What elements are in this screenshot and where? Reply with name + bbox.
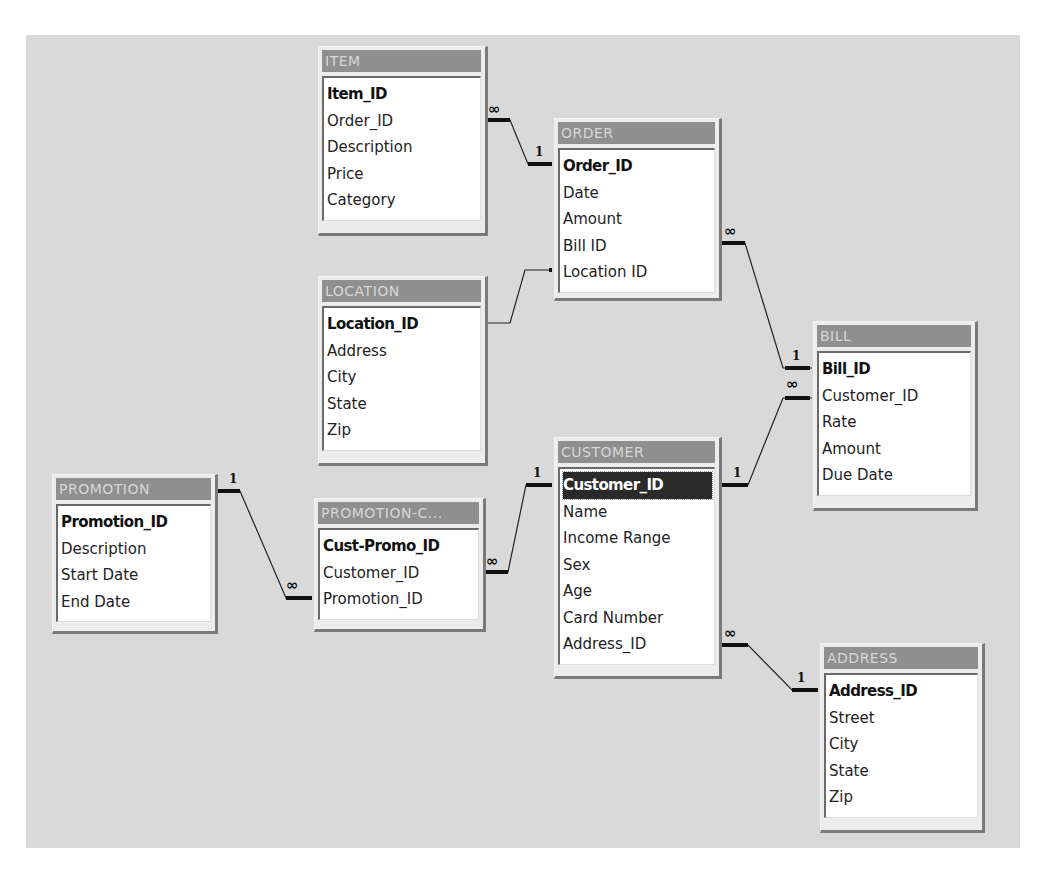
- field[interactable]: State: [829, 758, 977, 785]
- field[interactable]: Sex: [563, 552, 714, 579]
- field[interactable]: Start Date: [61, 562, 210, 589]
- field-list: Address_ID Street City State Zip: [824, 673, 978, 818]
- field[interactable]: Zip: [327, 417, 480, 444]
- table-bill[interactable]: BILL Bill_ID Customer_ID Rate Amount Due…: [813, 321, 978, 511]
- cardinality-one-label: 1: [533, 466, 541, 480]
- field-primary-key[interactable]: Item_ID: [327, 81, 480, 108]
- cardinality-one-label: 1: [792, 349, 800, 363]
- field[interactable]: Order_ID: [327, 108, 480, 135]
- table-title[interactable]: ORDER: [558, 122, 715, 144]
- field[interactable]: Age: [563, 578, 714, 605]
- field[interactable]: Bill ID: [563, 233, 714, 260]
- cardinality-many-icon: ∞: [286, 576, 298, 594]
- field[interactable]: Promotion_ID: [323, 586, 478, 613]
- table-item[interactable]: ITEM Item_ID Order_ID Description Price …: [318, 46, 488, 236]
- field[interactable]: Card Number: [563, 605, 714, 632]
- field[interactable]: Customer_ID: [323, 560, 478, 587]
- field-list: Location_ID Address City State Zip: [322, 306, 481, 451]
- field[interactable]: Income Range: [563, 525, 714, 552]
- field[interactable]: Name: [563, 499, 714, 526]
- field[interactable]: Location ID: [563, 259, 714, 286]
- cardinality-many-icon: ∞: [786, 375, 798, 393]
- field-list: Cust-Promo_ID Customer_ID Promotion_ID: [318, 528, 479, 620]
- field-list: Promotion_ID Description Start Date End …: [56, 504, 211, 622]
- field-list: Item_ID Order_ID Description Price Categ…: [322, 76, 481, 221]
- field-primary-key[interactable]: Location_ID: [327, 311, 480, 338]
- field-primary-key[interactable]: Cust-Promo_ID: [323, 533, 478, 560]
- field-primary-key[interactable]: Address_ID: [829, 678, 977, 705]
- field[interactable]: Amount: [563, 206, 714, 233]
- field[interactable]: City: [327, 364, 480, 391]
- table-customer[interactable]: CUSTOMER Customer_ID Name Income Range S…: [554, 437, 722, 679]
- field[interactable]: Customer_ID: [822, 383, 970, 410]
- field[interactable]: Address: [327, 338, 480, 365]
- field-primary-key-selected[interactable]: Customer_ID: [563, 472, 712, 499]
- table-promotion-customer[interactable]: PROMOTION-C... Cust-Promo_ID Customer_ID…: [314, 498, 486, 632]
- cardinality-one-label: 1: [229, 472, 237, 486]
- field[interactable]: City: [829, 731, 977, 758]
- field[interactable]: Address_ID: [563, 631, 714, 658]
- field[interactable]: State: [327, 391, 480, 418]
- field-list: Customer_ID Name Income Range Sex Age Ca…: [558, 467, 715, 665]
- table-location[interactable]: LOCATION Location_ID Address City State …: [318, 276, 488, 466]
- table-address[interactable]: ADDRESS Address_ID Street City State Zip: [820, 643, 985, 833]
- field-list: Order_ID Date Amount Bill ID Location ID: [558, 148, 715, 293]
- table-promotion[interactable]: PROMOTION Promotion_ID Description Start…: [52, 474, 218, 634]
- table-title[interactable]: PROMOTION-C...: [318, 502, 479, 524]
- field-list: Bill_ID Customer_ID Rate Amount Due Date: [817, 351, 971, 496]
- field[interactable]: Amount: [822, 436, 970, 463]
- table-title[interactable]: CUSTOMER: [558, 441, 715, 463]
- cardinality-many-icon: ∞: [486, 552, 498, 570]
- field[interactable]: Price: [327, 161, 480, 188]
- field[interactable]: Description: [61, 536, 210, 563]
- field[interactable]: Due Date: [822, 462, 970, 489]
- cardinality-many-icon: ∞: [724, 222, 736, 240]
- field-primary-key[interactable]: Order_ID: [563, 153, 714, 180]
- cardinality-one-label: 1: [733, 466, 741, 480]
- field[interactable]: Street: [829, 705, 977, 732]
- cardinality-one-label: 1: [535, 145, 543, 159]
- field[interactable]: End Date: [61, 589, 210, 616]
- cardinality-many-icon: ∞: [724, 624, 736, 642]
- table-title[interactable]: LOCATION: [322, 280, 481, 302]
- table-title[interactable]: BILL: [817, 325, 971, 347]
- field-primary-key[interactable]: Bill_ID: [822, 356, 970, 383]
- table-title[interactable]: ADDRESS: [824, 647, 978, 669]
- field[interactable]: Date: [563, 180, 714, 207]
- table-title[interactable]: ITEM: [322, 50, 481, 72]
- table-title[interactable]: PROMOTION: [56, 478, 211, 500]
- field[interactable]: Description: [327, 134, 480, 161]
- cardinality-many-icon: ∞: [488, 100, 500, 118]
- cardinality-one-label: 1: [797, 671, 805, 685]
- table-order[interactable]: ORDER Order_ID Date Amount Bill ID Locat…: [554, 118, 722, 301]
- field[interactable]: Rate: [822, 409, 970, 436]
- field-primary-key[interactable]: Promotion_ID: [61, 509, 210, 536]
- field[interactable]: Zip: [829, 784, 977, 811]
- field[interactable]: Category: [327, 187, 480, 214]
